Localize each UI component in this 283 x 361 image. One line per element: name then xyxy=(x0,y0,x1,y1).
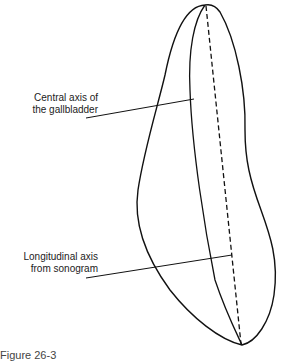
central-axis-label: Central axis of the gallbladder xyxy=(28,92,98,116)
central-axis-label-line1: Central axis of xyxy=(28,92,98,104)
longitudinal-axis-label-line1: Longitudinal axis xyxy=(6,251,98,263)
central-axis-leader xyxy=(86,99,194,118)
longitudinal-axis-label-line2: from sonogram xyxy=(6,263,98,275)
figure-caption: Figure 26-3 xyxy=(0,349,56,361)
central-axis-label-line2: the gallbladder xyxy=(28,104,98,116)
longitudinal-axis-dashed xyxy=(206,6,241,344)
gallbladder-outline xyxy=(137,5,275,345)
longitudinal-axis-label: Longitudinal axis from sonogram xyxy=(6,251,98,275)
central-axis-curve xyxy=(190,5,242,345)
